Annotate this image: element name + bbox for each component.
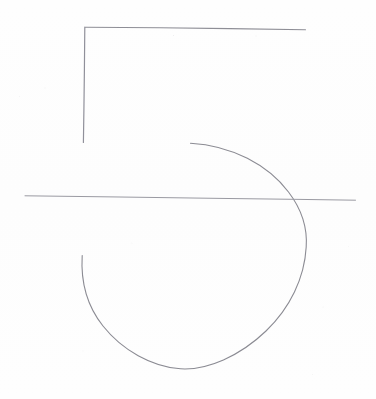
drawing-canvas: Hand-drawn numeral five sketch 5 (0, 0, 376, 399)
paper-speck-mid-right (348, 246, 349, 247)
middle-horizontal-stroke (25, 196, 356, 200)
left-vertical-stroke (83, 27, 84, 143)
top-horizontal-stroke (86, 27, 306, 30)
stroke-group (25, 27, 356, 369)
sketch-illustration (0, 0, 376, 399)
bowl-arc-stroke (82, 143, 306, 369)
